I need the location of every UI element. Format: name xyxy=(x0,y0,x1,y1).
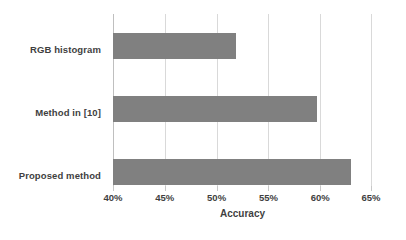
bar-proposed-method xyxy=(113,159,351,185)
xtick-label-5: 65% xyxy=(361,192,380,203)
xtick-label-1: 45% xyxy=(155,192,174,203)
bar-rgb-histogram xyxy=(113,33,236,59)
bar-method-in-10 xyxy=(113,96,317,122)
category-label-1: Method in [10] xyxy=(35,107,101,118)
xtick-label-0: 40% xyxy=(103,192,122,203)
value-axis-ticks: 40% 45% 50% 55% 60% 65% xyxy=(113,192,372,208)
category-label-2: Proposed method xyxy=(19,170,101,181)
xtick-label-4: 60% xyxy=(311,192,330,203)
category-label-0: RGB histogram xyxy=(30,44,101,55)
category-axis: RGB histogram Method in [10] Proposed me… xyxy=(0,14,107,190)
xtick-label-3: 55% xyxy=(259,192,278,203)
xtick-label-2: 50% xyxy=(207,192,226,203)
plot-area xyxy=(113,14,372,190)
x-axis-title: Accuracy xyxy=(113,208,372,219)
gridline-65 xyxy=(371,14,372,190)
chart-figure: RGB histogram Method in [10] Proposed me… xyxy=(0,0,406,240)
